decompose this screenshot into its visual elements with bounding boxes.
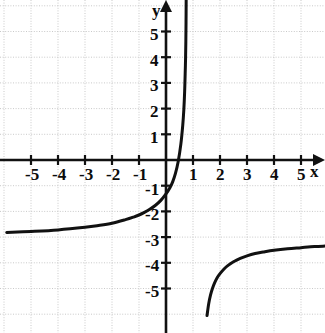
y-tick-label-3: 3 — [150, 77, 159, 94]
curve-branch-0 — [7, 0, 186, 232]
y-tick-label--5: -5 — [145, 283, 159, 300]
x-tick-label-1: 1 — [189, 166, 198, 183]
graph-figure: -5 -4 -3 -2 -1 1 2 3 4 5 5 4 3 2 1 -1 -2… — [0, 0, 325, 333]
y-tick-label--2: -2 — [145, 206, 159, 223]
x-tick-label--3: -3 — [79, 166, 93, 183]
x-tick-label-4: 4 — [270, 166, 279, 183]
y-axis-label: y — [152, 2, 161, 19]
x-axis-label: x — [310, 163, 319, 180]
curve-branch-1 — [207, 246, 325, 315]
y-tick-label-1: 1 — [150, 129, 159, 146]
y-tick-label--3: -3 — [145, 232, 159, 249]
x-tick-label-2: 2 — [216, 166, 225, 183]
y-tick-label--4: -4 — [145, 257, 159, 274]
y-tick-label--1: -1 — [145, 181, 159, 198]
x-tick-label--4: -4 — [52, 166, 66, 183]
y-tick-label-2: 2 — [150, 103, 159, 120]
x-tick-label--5: -5 — [25, 166, 39, 183]
x-tick-label-3: 3 — [243, 166, 252, 183]
x-tick-label--2: -2 — [106, 166, 120, 183]
y-tick-label-4: 4 — [150, 52, 159, 69]
y-tick-label-5: 5 — [150, 26, 159, 43]
x-tick-label-5: 5 — [297, 166, 306, 183]
